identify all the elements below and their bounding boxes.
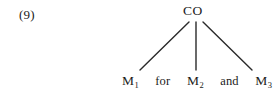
tree-leaf-row: M1 for M2 and M3 bbox=[122, 73, 272, 93]
syntax-tree-figure: (9) CO M1 for M2 and M3 bbox=[0, 0, 280, 96]
conjunction-and: and bbox=[220, 73, 238, 89]
leaf-m1-subscript: 1 bbox=[135, 80, 139, 90]
leaf-node-m3: M3 bbox=[255, 73, 272, 90]
leaf-m3-base: M bbox=[255, 73, 267, 88]
conjunction-for: for bbox=[155, 73, 170, 89]
leaf-m2-subscript: 2 bbox=[199, 80, 203, 90]
right-branch-line bbox=[203, 22, 252, 70]
leaf-node-m2: M2 bbox=[187, 73, 204, 90]
leaf-m1-base: M bbox=[122, 73, 134, 88]
leaf-node-m1: M1 bbox=[122, 73, 139, 90]
left-branch-line bbox=[140, 22, 189, 70]
leaf-m3-subscript: 3 bbox=[268, 80, 272, 90]
leaf-m2-base: M bbox=[187, 73, 199, 88]
